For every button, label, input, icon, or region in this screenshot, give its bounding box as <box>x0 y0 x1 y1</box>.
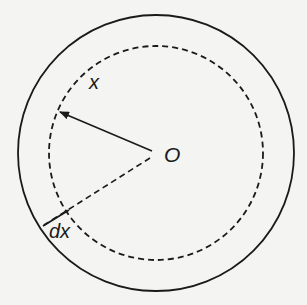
ring-width-label: dx <box>49 220 71 242</box>
radius-arrow <box>60 112 152 151</box>
outer-circle <box>18 15 294 291</box>
radius-label: x <box>88 71 100 93</box>
center-label: O <box>164 143 180 166</box>
inner-dashed-circle <box>49 46 263 260</box>
concentric-circle-diagram: x O dx <box>0 0 307 305</box>
